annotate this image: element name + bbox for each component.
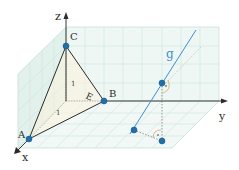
right-angle-dot-upper — [165, 85, 167, 87]
point-b-label: B — [109, 88, 116, 99]
z-arrow-icon — [64, 12, 69, 19]
x-axis-label: x — [22, 151, 29, 164]
coordinate-diagram: z y x C B A E g 1 1 — [0, 0, 239, 170]
point-c — [63, 43, 69, 49]
point-on-g-upper — [159, 80, 165, 86]
y-axis-label: y — [218, 110, 226, 123]
point-foot — [159, 138, 165, 144]
z-axis-label: z — [55, 10, 61, 23]
point-a — [26, 136, 32, 142]
x-unit-label: 1 — [56, 109, 60, 117]
y-arrow-icon — [221, 99, 228, 104]
right-angle-dot-lower — [157, 134, 159, 136]
point-on-g-lower — [131, 127, 137, 133]
z-unit-label: 1 — [71, 80, 75, 88]
point-b — [101, 98, 107, 104]
point-c-label: C — [70, 31, 78, 42]
point-a-label: A — [17, 129, 26, 140]
line-g-label: g — [166, 47, 174, 61]
